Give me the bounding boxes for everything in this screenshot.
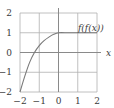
x-tick-label: −2 — [13, 96, 26, 106]
axes — [20, 8, 101, 92]
x-tick-label: 2 — [94, 96, 100, 106]
y-tick-label: 0 — [6, 48, 12, 58]
y-tick-label: −1 — [0, 67, 12, 77]
y-tick-label: 1 — [6, 28, 12, 38]
x-tick-label: 0 — [56, 96, 62, 106]
function-plot: 210−1−2 −2−1012 x f(f(x)) — [0, 0, 114, 108]
x-tick-label: −1 — [33, 96, 46, 106]
x-tick-labels: −2−1012 — [13, 96, 100, 106]
y-tick-label: −2 — [0, 87, 12, 97]
x-axis-label: x — [106, 48, 111, 58]
curve-label: f(f(x)) — [77, 23, 104, 33]
y-tick-labels: 210−1−2 — [0, 8, 12, 97]
x-tick-label: 1 — [75, 96, 81, 106]
y-tick-label: 2 — [6, 8, 12, 18]
